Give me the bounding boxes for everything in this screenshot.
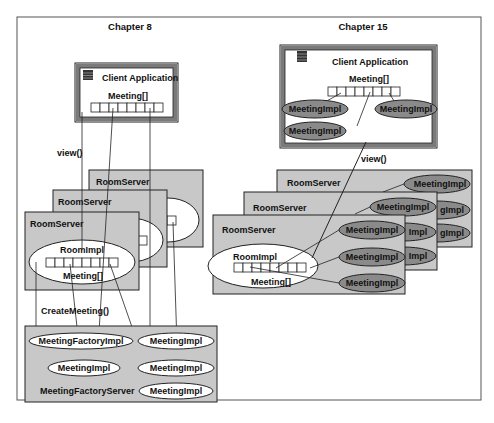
svg-text:RoomServer: RoomServer <box>96 177 150 187</box>
svg-text:MeetingImpl: MeetingImpl <box>346 225 399 235</box>
svg-text:Client Application: Client Application <box>332 57 408 67</box>
right-client-application: Client Application Meeting[] MeetingImpl… <box>280 45 437 148</box>
svg-text:Meeting[]: Meeting[] <box>349 74 389 84</box>
svg-text:MeetingImpl: MeetingImpl <box>414 179 467 189</box>
svg-text:Meeting[]: Meeting[] <box>251 277 291 287</box>
right-view-call-label: view() <box>361 154 387 164</box>
svg-text:MeetingFactoryServer: MeetingFactoryServer <box>40 386 135 396</box>
svg-text:RoomServer: RoomServer <box>222 225 276 235</box>
left-room-meeting-array <box>46 258 118 267</box>
svg-text:MeetingImpl: MeetingImpl <box>289 126 342 136</box>
svg-text:gImpl: gImpl <box>440 228 464 238</box>
svg-text:RoomServer: RoomServer <box>58 197 112 207</box>
svg-text:Meeting[]: Meeting[] <box>108 91 148 101</box>
svg-text:MeetingImpl: MeetingImpl <box>380 104 433 114</box>
svg-text:MeetingImpl: MeetingImpl <box>377 202 430 212</box>
svg-text:RoomServer: RoomServer <box>30 219 84 229</box>
svg-text:MeetingImpl: MeetingImpl <box>346 278 399 288</box>
create-meeting-call-label: CreateMeeting() <box>41 306 109 316</box>
svg-text:MeetingImpl: MeetingImpl <box>58 363 111 373</box>
svg-text:RoomServer: RoomServer <box>287 178 341 188</box>
svg-text:RoomServer: RoomServer <box>253 203 307 213</box>
svg-text:MeetingImpl: MeetingImpl <box>150 336 203 346</box>
svg-text:MeetingImpl: MeetingImpl <box>289 104 342 114</box>
svg-text:Impl: Impl <box>409 227 428 237</box>
svg-text:MeetingImpl: MeetingImpl <box>150 363 203 373</box>
svg-text:Impl: Impl <box>409 251 428 261</box>
left-panel-title: Chapter 8 <box>108 21 152 32</box>
svg-text:MeetingImpl: MeetingImpl <box>150 386 203 396</box>
right-roomserver-front: RoomServer RoomImpl Meeting[] MeetingImp… <box>208 215 405 294</box>
svg-text:gImpl: gImpl <box>440 205 464 215</box>
window-icon <box>83 70 93 80</box>
left-view-call-label: view() <box>57 148 83 158</box>
architecture-diagram: Chapter 8 RoomServer RoomServer RoomServ… <box>0 0 494 423</box>
meeting-factory-server: MeetingFactoryImpl MeetingImpl MeetingIm… <box>25 326 217 402</box>
svg-text:Meeting[]: Meeting[] <box>63 271 103 281</box>
svg-text:RoomImpl: RoomImpl <box>233 252 277 262</box>
left-client-application: Client Application Meeting[] <box>75 63 178 122</box>
svg-text:MeetingFactoryImpl: MeetingFactoryImpl <box>38 336 123 346</box>
right-panel-title: Chapter 15 <box>338 21 388 32</box>
svg-text:Client Application: Client Application <box>102 73 178 83</box>
window-icon <box>297 51 307 62</box>
svg-text:MeetingImpl: MeetingImpl <box>346 252 399 262</box>
